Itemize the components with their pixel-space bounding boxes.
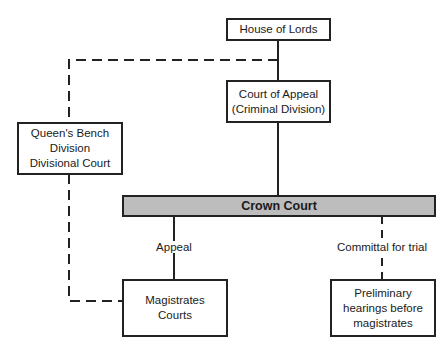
node-label: Courts (158, 308, 192, 323)
node-label: Queen's Bench (31, 126, 109, 141)
node-queens-bench: Queen's Bench Division Divisional Court (17, 122, 123, 175)
node-preliminary-hearings: Preliminary hearings before magistrates (330, 279, 436, 337)
edge-label-appeal: Appeal (153, 241, 195, 253)
node-label: Division (50, 141, 90, 156)
node-crown-court: Crown Court (122, 195, 436, 217)
node-label: Divisional Court (30, 156, 111, 171)
node-magistrates-courts: Magistrates Courts (122, 279, 228, 337)
edge-label-committal: Committal for trial (334, 241, 430, 253)
node-label: Magistrates (145, 293, 204, 308)
node-label: House of Lords (240, 22, 318, 37)
node-label: hearings before (343, 301, 423, 316)
node-label: Court of Appeal (239, 87, 318, 102)
node-house-of-lords: House of Lords (226, 18, 331, 41)
node-label: magistrates (353, 316, 412, 331)
node-court-of-appeal: Court of Appeal (Criminal Division) (226, 80, 331, 123)
node-label: Crown Court (241, 199, 317, 213)
node-label: Preliminary (354, 286, 412, 301)
node-label: (Criminal Division) (232, 102, 325, 117)
